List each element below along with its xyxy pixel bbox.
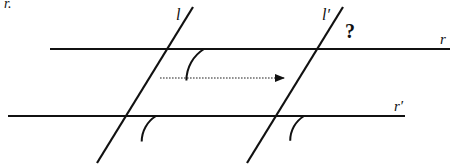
- angle-arc-l-prime-r-prime: [290, 116, 304, 141]
- label-r-prime: r′: [394, 98, 404, 114]
- transversal-l-prime: [247, 7, 343, 163]
- angle-arc-l-r: [186, 49, 204, 81]
- corner-fragment-text: r.: [4, 0, 11, 11]
- label-l-prime: l′: [322, 6, 330, 23]
- unknown-angle-question-mark: ?: [345, 20, 355, 42]
- transversal-l: [97, 7, 193, 163]
- label-r: r: [440, 31, 446, 47]
- parallel-lines-diagram: r. r r′ l l′ ?: [0, 0, 452, 165]
- label-l: l: [176, 6, 181, 23]
- angle-arc-l-r-prime: [142, 116, 156, 142]
